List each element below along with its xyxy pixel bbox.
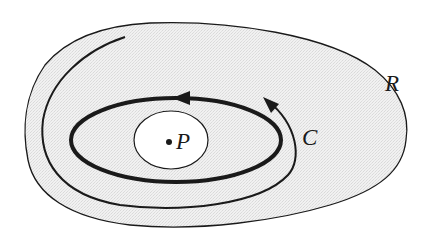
point-p-dot xyxy=(166,139,172,145)
contour-label: C xyxy=(302,126,317,149)
diagram-canvas xyxy=(0,0,432,245)
region-contour-diagram: R C P xyxy=(0,0,432,245)
region-r-outline xyxy=(25,23,407,227)
point-label: P xyxy=(176,130,190,153)
region-label: R xyxy=(385,72,399,95)
